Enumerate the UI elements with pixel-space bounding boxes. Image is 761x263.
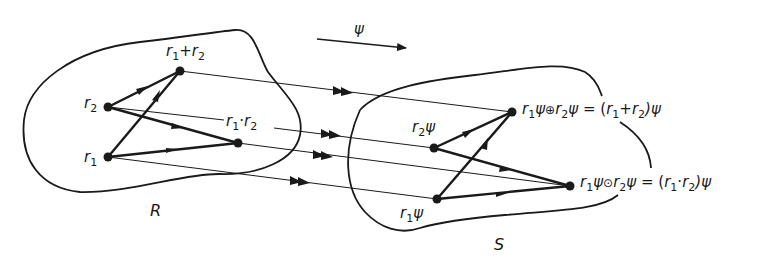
psi-arrow [317, 39, 406, 48]
point-product-image [566, 182, 575, 191]
label-r1: r1 [84, 150, 97, 168]
set-r-label: R [150, 203, 161, 219]
label-r1-plus-r2: r1+r2 [166, 44, 205, 62]
point-sum-image [508, 108, 517, 117]
label-r1-times-r2: r1·r2 [224, 114, 259, 132]
label-r2: r2 [84, 96, 97, 114]
label-r2psi: r2ψ [412, 120, 435, 138]
point-r1-plus-r2 [176, 67, 185, 76]
point-r1psi [433, 195, 442, 204]
psi-label: ψ [354, 22, 364, 37]
codomain-edges [434, 112, 570, 199]
label-sum-image: r1ψ⊕r2ψ = (r1+r2)ψ [522, 102, 661, 120]
set-r-boundary [23, 30, 300, 192]
homomorphism-diagram [0, 0, 761, 263]
label-r1psi: r1ψ [400, 206, 423, 224]
point-r1 [104, 153, 113, 162]
set-s-label: S [494, 237, 504, 253]
set-s-boundary [348, 66, 651, 230]
label-product-image: r1ψ⊙r2ψ = (r1·r2)ψ [580, 175, 711, 193]
point-r2psi [430, 144, 439, 153]
point-r2 [104, 103, 113, 112]
point-r1-times-r2 [234, 139, 243, 148]
